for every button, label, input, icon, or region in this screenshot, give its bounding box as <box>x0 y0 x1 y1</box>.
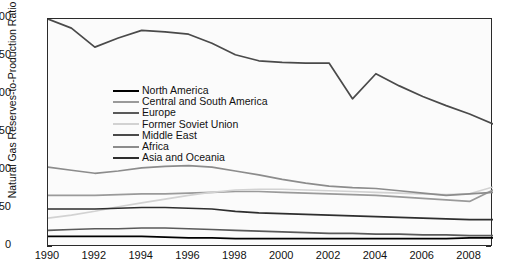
legend-label: Former Soviet Union <box>142 119 238 130</box>
legend-label: Asia and Oceania <box>142 152 225 163</box>
y-tick-label: 50 <box>0 200 11 212</box>
series-line <box>48 236 493 238</box>
x-tick-label: 2002 <box>303 249 353 261</box>
legend-label: Europe <box>142 107 176 118</box>
y-axis-label: Natural Gas Reserves-to-Production Ratio <box>6 0 18 220</box>
y-tick-label: 100 <box>0 162 11 174</box>
legend-swatch <box>113 146 139 148</box>
legend-swatch <box>113 90 139 92</box>
x-tick-label: 2000 <box>256 249 306 261</box>
series-line <box>48 207 493 219</box>
legend-item: Asia and Oceania <box>113 152 268 163</box>
y-tick-label: 300 <box>0 10 11 22</box>
y-tick-label: 0 <box>0 238 11 250</box>
y-tick-label: 150 <box>0 124 11 136</box>
legend-swatch <box>113 134 139 136</box>
plot-area: North AmericaCentral and South AmericaEu… <box>47 18 492 246</box>
y-tick-label: 200 <box>0 86 11 98</box>
series-line <box>48 228 493 236</box>
x-tick-label: 1994 <box>116 249 166 261</box>
x-tick-label: 2006 <box>397 249 447 261</box>
x-tick-label: 1990 <box>22 249 72 261</box>
series-line <box>48 166 493 196</box>
legend-swatch <box>113 157 139 159</box>
legend-item: Central and South America <box>113 96 268 107</box>
legend-swatch <box>113 101 139 103</box>
series-line <box>48 190 493 201</box>
x-tick-label: 2004 <box>350 249 400 261</box>
figure: Natural Gas Reserves-to-Production Ratio… <box>0 0 505 278</box>
x-tick-label: 1996 <box>163 249 213 261</box>
x-tick-label: 2008 <box>444 249 494 261</box>
y-tick-label: 250 <box>0 48 11 60</box>
legend-item: Middle East <box>113 130 268 141</box>
legend-swatch <box>113 123 139 125</box>
x-tick-label: 1992 <box>69 249 119 261</box>
legend-item: Europe <box>113 107 268 118</box>
legend: North AmericaCentral and South AmericaEu… <box>113 85 268 163</box>
x-tick-label: 1998 <box>209 249 259 261</box>
legend-swatch <box>113 112 139 114</box>
